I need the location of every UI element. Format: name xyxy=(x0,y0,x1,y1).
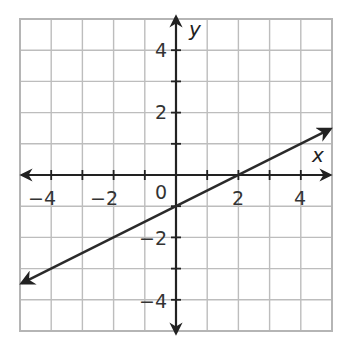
y-tick-label: 2 xyxy=(155,101,167,123)
y-axis-label: y xyxy=(188,17,202,41)
x-tick-label: 2 xyxy=(232,187,244,209)
x-axis-label: x xyxy=(311,143,324,167)
y-tick-label: −2 xyxy=(139,227,167,249)
coordinate-plane: −4 −2 2 4 4 2 −2 −4 0 x y xyxy=(0,0,345,354)
x-tick-label: −4 xyxy=(28,187,56,209)
origin-label: 0 xyxy=(155,181,167,203)
x-tick-label: −2 xyxy=(90,187,118,209)
y-tick-label: 4 xyxy=(155,39,167,61)
x-tick-label: 4 xyxy=(294,187,306,209)
y-tick-label: −4 xyxy=(139,290,167,312)
